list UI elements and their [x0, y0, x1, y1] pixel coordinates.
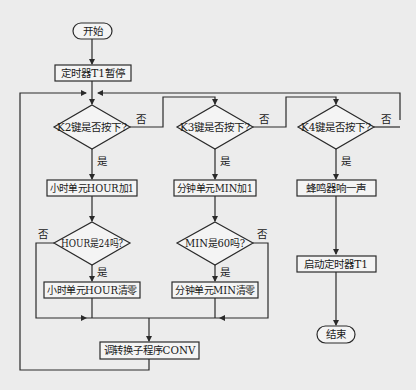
svg-text:分钟单元MIN清零: 分钟单元MIN清零 — [175, 284, 256, 296]
hour-increment-process: 小时单元HOUR加1 — [47, 180, 137, 196]
svg-text:K3键是否按下?: K3键是否按下? — [180, 121, 250, 133]
min60-yes-label: 是 — [220, 266, 231, 278]
k3-no-label: 否 — [259, 113, 270, 125]
svg-text:定时器T1暂停: 定时器T1暂停 — [61, 67, 125, 79]
beep-process: 蜂鸣器响一声 — [297, 180, 376, 196]
hour24-no-label: 否 — [38, 228, 49, 240]
min60-no-label: 否 — [257, 228, 268, 240]
stop-timer-process: 定时器T1暂停 — [55, 65, 131, 81]
start-terminal: 开始 — [73, 23, 112, 39]
svg-text:开始: 开始 — [83, 25, 104, 37]
end-terminal: 结束 — [317, 326, 355, 343]
svg-text:小时单元HOUR加1: 小时单元HOUR加1 — [50, 182, 134, 194]
k4-decision: K4键是否按下? — [298, 105, 374, 149]
hour-24-decision: HOUR是24吗? — [54, 222, 130, 265]
min-60-decision: MIN是60吗? — [177, 222, 253, 265]
hour24-yes-label: 是 — [97, 266, 108, 278]
start-timer-process: 启动定时器T1 — [297, 256, 376, 272]
svg-text:结束: 结束 — [326, 328, 347, 340]
k2-no-label: 否 — [136, 113, 147, 125]
svg-text:小时单元HOUR清零: 小时单元HOUR清零 — [47, 284, 138, 296]
k3-yes-label: 是 — [220, 155, 231, 167]
k2-yes-label: 是 — [97, 155, 108, 167]
connectors — [20, 38, 400, 370]
svg-text:K2键是否按下?: K2键是否按下? — [57, 121, 127, 133]
conv-subroutine-process: 调转换子程序CONV — [100, 342, 199, 359]
svg-text:K4键是否按下?: K4键是否按下? — [301, 121, 371, 133]
svg-text:调转换子程序CONV: 调转换子程序CONV — [104, 344, 196, 356]
svg-text:MIN是60吗?: MIN是60吗? — [185, 237, 245, 249]
flowchart-canvas: 开始 定时器T1暂停 K2键是否按下? 否 是 K3键是否按下? 否 是 K4键… — [0, 0, 416, 390]
svg-text:蜂鸣器响一声: 蜂鸣器响一声 — [306, 182, 366, 194]
svg-text:分钟单元MIN加1: 分钟单元MIN加1 — [177, 182, 253, 194]
min-clear-process: 分钟单元MIN清零 — [172, 282, 258, 298]
k4-yes-label: 是 — [341, 155, 352, 167]
svg-text:启动定时器T1: 启动定时器T1 — [304, 258, 368, 270]
k4-no-label: 否 — [381, 113, 392, 125]
k3-decision: K3键是否按下? — [177, 105, 253, 149]
svg-text:HOUR是24吗?: HOUR是24吗? — [61, 237, 123, 249]
min-increment-process: 分钟单元MIN加1 — [174, 180, 256, 196]
hour-clear-process: 小时单元HOUR清零 — [44, 282, 140, 298]
k2-decision: K2键是否按下? — [54, 105, 130, 149]
